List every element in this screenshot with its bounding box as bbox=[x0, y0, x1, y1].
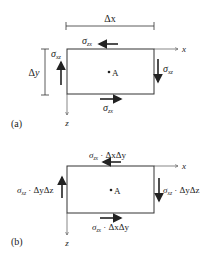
dim-y-label: Δy bbox=[29, 67, 40, 78]
z-axis-label: z bbox=[64, 238, 69, 248]
point-a-dot bbox=[110, 189, 113, 192]
z-axis-label: z bbox=[64, 118, 69, 128]
dimension-delta-x: Δx bbox=[66, 13, 154, 30]
right-force-label: σxz · ΔyΔz bbox=[163, 185, 200, 196]
top-stress-label: σzx bbox=[82, 35, 92, 47]
right-stress-label: σxz bbox=[163, 63, 174, 75]
panel-b: x z A σzx · ΔxΔy σzx · ΔxΔy σxz · ΔyΔz σ… bbox=[11, 150, 200, 248]
bottom-stress-label: σzx bbox=[103, 102, 113, 114]
element-rectangle bbox=[67, 49, 154, 94]
bottom-force-label: σzx · ΔxΔy bbox=[92, 222, 130, 233]
left-stress-label: σxz bbox=[51, 48, 62, 60]
x-axis-label: x bbox=[181, 44, 186, 54]
dimension-delta-y: Δy bbox=[29, 49, 49, 95]
x-axis-label: x bbox=[181, 161, 186, 171]
panel-a: Δx Δy x z A σzx σzx σxz σxz (a) bbox=[11, 13, 186, 130]
point-a-dot bbox=[108, 71, 111, 74]
point-a-label: A bbox=[114, 186, 121, 196]
point-a-label: A bbox=[112, 68, 119, 78]
panel-a-label: (a) bbox=[11, 118, 22, 130]
panel-b-label: (b) bbox=[11, 236, 23, 248]
shear-stress-diagram: Δx Δy x z A σzx σzx σxz σxz (a) bbox=[0, 0, 210, 267]
left-force-label: σxz · ΔyΔz bbox=[17, 185, 54, 196]
dim-x-label: Δx bbox=[104, 13, 115, 24]
top-force-label: σzx · ΔxΔy bbox=[89, 150, 127, 161]
